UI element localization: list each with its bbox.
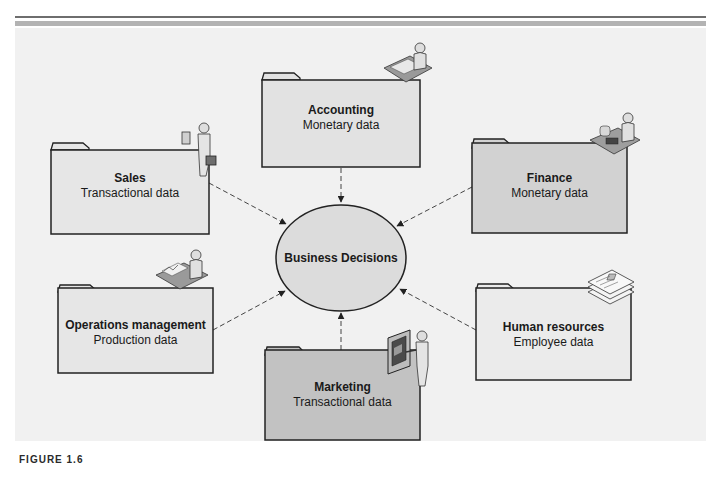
figure-caption: FIGURE 1.6 <box>19 454 83 465</box>
marketing-subtitle: Transactional data <box>265 395 420 410</box>
finance-title: Finance <box>472 171 627 186</box>
accounting-title: Accounting <box>262 103 420 118</box>
connector-finance <box>397 187 472 226</box>
operations-subtitle: Production data <box>58 333 213 348</box>
hr-label: Human resources Employee data <box>476 320 631 350</box>
finance-label: Finance Monetary data <box>472 171 627 201</box>
person-at-desk-chart-icon <box>156 250 208 289</box>
operations-title: Operations management <box>58 318 213 333</box>
accounting-subtitle: Monetary data <box>262 118 420 133</box>
hr-title: Human resources <box>476 320 631 335</box>
sales-subtitle: Transactional data <box>51 186 209 201</box>
accounting-label: Accounting Monetary data <box>262 103 420 133</box>
hr-subtitle: Employee data <box>476 335 631 350</box>
connector-sales <box>209 183 286 224</box>
connector-operations <box>213 291 285 330</box>
sales-title: Sales <box>51 171 209 186</box>
finance-subtitle: Monetary data <box>472 186 627 201</box>
operations-label: Operations management Production data <box>58 318 213 348</box>
business-decisions-label: Business Decisions <box>276 251 406 265</box>
person-at-desk-icon <box>384 43 432 82</box>
connector-hr <box>400 289 476 330</box>
marketing-title: Marketing <box>265 380 420 395</box>
marketing-label: Marketing Transactional data <box>265 380 420 410</box>
sales-label: Sales Transactional data <box>51 171 209 201</box>
